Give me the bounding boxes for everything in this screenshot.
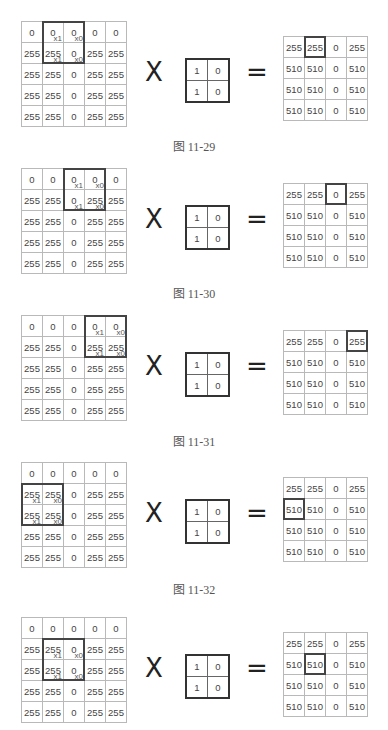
input-cell: 0 <box>64 618 85 639</box>
input-cell-value: 0 <box>71 384 76 395</box>
figure-caption: 图 11-31 <box>0 432 388 450</box>
input-cell: 255 <box>22 337 43 358</box>
convolution-step-panel: 00000255255x10x0255255255255x10x02552552… <box>0 617 388 730</box>
input-cell-value: 0 <box>71 623 76 634</box>
output-cell: 510 <box>305 675 326 696</box>
input-cell: 255x1 <box>22 484 43 505</box>
input-cell-value: 255 <box>108 489 124 500</box>
input-cell-value: 255 <box>108 644 124 655</box>
input-cell: 0 <box>106 618 127 639</box>
input-matrix: 00000255255x10x0255255255255x10x02552552… <box>21 617 127 723</box>
input-cell: 0 <box>64 681 85 702</box>
input-matrix-row: 2552550255255 <box>22 400 127 421</box>
input-cell-value: 0 <box>71 363 76 374</box>
input-cell: 255x0 <box>85 190 106 211</box>
input-cell: 255x1 <box>43 43 64 64</box>
input-cell-value: 255 <box>108 258 124 269</box>
input-cell-value: 255 <box>108 195 124 206</box>
input-cell-value: 255 <box>108 69 124 80</box>
input-cell-value: 0 <box>29 27 34 38</box>
input-cell-value: 255 <box>87 237 103 248</box>
input-cell-value: 255 <box>45 384 61 395</box>
input-cell: 255x1 <box>22 505 43 526</box>
kernel-cell: 0 <box>208 655 230 677</box>
input-cell-value: 255 <box>45 405 61 416</box>
input-cell: 255 <box>22 232 43 253</box>
input-cell: 0 <box>22 316 43 337</box>
input-cell-value: 255 <box>108 384 124 395</box>
input-cell: 255 <box>106 547 127 568</box>
input-cell-value: 0 <box>113 623 118 634</box>
input-cell-value: 0 <box>113 174 118 185</box>
convolution-step-panel: 000x10x002552550x1255x025525525502552552… <box>0 168 388 298</box>
output-matrix-row: 2552550255 <box>284 633 368 654</box>
output-cell: 510 <box>284 675 305 696</box>
kernel-row: 10 <box>186 59 229 81</box>
output-cell: 510 <box>305 654 326 675</box>
output-cell: 510 <box>305 352 326 373</box>
input-cell: 0 <box>64 253 85 274</box>
input-cell-value: 255 <box>24 48 40 59</box>
output-matrix-row: 5105100510 <box>284 696 368 717</box>
output-cell: 510 <box>284 373 305 394</box>
multiply-operator: X <box>145 653 163 683</box>
input-cell-value: 255 <box>24 686 40 697</box>
output-cell: 255 <box>284 37 305 58</box>
output-matrix-row: 5105100510 <box>284 675 368 696</box>
input-cell-value: 255 <box>45 552 61 563</box>
input-cell: 0 <box>64 316 85 337</box>
kernel-row: 10 <box>186 206 229 228</box>
input-cell-value: 255 <box>45 707 61 718</box>
input-cell-value: 255 <box>24 258 40 269</box>
input-cell: 255 <box>22 64 43 85</box>
kernel-row: 10 <box>186 353 229 375</box>
kernel-matrix: 1010 <box>185 352 230 397</box>
output-cell: 0 <box>326 58 347 79</box>
input-cell: 0 <box>106 463 127 484</box>
input-cell: 255 <box>85 681 106 702</box>
input-cell-value: 255 <box>45 216 61 227</box>
input-cell-value: 255 <box>87 686 103 697</box>
input-cell: 255 <box>106 526 127 547</box>
output-matrix-row: 5105100510 <box>284 205 368 226</box>
kernel-matrix: 1010 <box>185 205 230 250</box>
input-cell: 0 <box>64 106 85 127</box>
convolution-step-panel: 00000255x1255x00255255255x1255x002552552… <box>0 462 388 592</box>
input-matrix-row: 2552550255255 <box>22 526 127 547</box>
output-cell: 510 <box>305 499 326 520</box>
output-cell: 510 <box>347 499 368 520</box>
output-cell: 0 <box>326 675 347 696</box>
output-cell: 255 <box>305 633 326 654</box>
kernel-row: 10 <box>186 500 229 522</box>
output-cell: 510 <box>284 205 305 226</box>
output-cell: 255 <box>284 633 305 654</box>
input-cell: 255 <box>43 253 64 274</box>
input-cell-value: 255 <box>108 363 124 374</box>
input-cell-value: 0 <box>29 468 34 479</box>
input-cell-value: 255 <box>24 665 40 676</box>
output-matrix-row: 5105100510 <box>284 58 368 79</box>
output-matrix: 2552550255510510051051051005105105100510 <box>283 330 368 415</box>
input-cell-value: 255 <box>108 216 124 227</box>
output-matrix-row: 5105100510 <box>284 394 368 415</box>
input-cell-value: 0 <box>71 90 76 101</box>
input-matrix-row: 2552550255255 <box>22 702 127 723</box>
input-cell-value: 0 <box>71 489 76 500</box>
input-cell-value: 255 <box>108 665 124 676</box>
input-cell: 255 <box>85 484 106 505</box>
kernel-row: 10 <box>186 375 229 397</box>
input-cell: 255 <box>85 85 106 106</box>
input-cell-value: 255 <box>24 531 40 542</box>
output-cell: 255 <box>305 331 326 352</box>
input-cell: 0 <box>22 463 43 484</box>
input-cell: 0x1 <box>64 169 85 190</box>
input-cell: 0 <box>64 547 85 568</box>
input-cell-value: 0 <box>71 707 76 718</box>
output-cell: 510 <box>347 58 368 79</box>
output-cell: 510 <box>347 373 368 394</box>
input-cell-value: 255 <box>87 90 103 101</box>
input-cell: 255 <box>43 337 64 358</box>
kernel-cell: 1 <box>186 353 208 375</box>
output-cell: 510 <box>305 541 326 562</box>
input-cell: 255 <box>85 64 106 85</box>
